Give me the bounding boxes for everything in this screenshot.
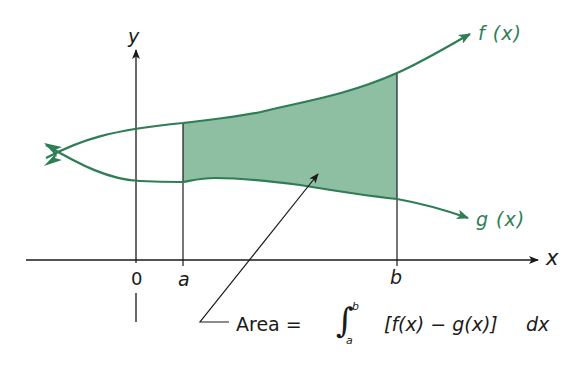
diagram: y x 0 a b f (x) g (x) Area = ∫ b a [f(x)…: [0, 0, 576, 371]
integrand: [f(x) − g(x)]: [384, 313, 498, 335]
curve-g-label: g (x): [476, 208, 525, 230]
curve-f-label: f (x): [478, 22, 522, 44]
origin-label: 0: [131, 268, 142, 289]
integral-upper-limit: b: [352, 300, 359, 313]
differential: dx: [526, 313, 549, 335]
bound-label-a: a: [178, 268, 190, 290]
leader-line: [200, 174, 318, 322]
y-axis-label: y: [128, 25, 139, 47]
bound-label-b: b: [390, 266, 402, 288]
integral-lower-limit: a: [346, 334, 353, 347]
shaded-area: [183, 73, 397, 199]
formula-prefix: Area =: [236, 313, 302, 335]
x-axis-label: x: [546, 246, 558, 270]
